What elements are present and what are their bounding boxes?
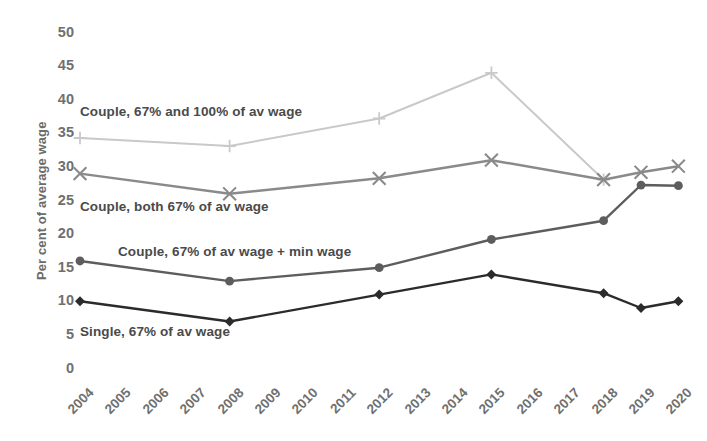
data-point-marker [599, 288, 609, 298]
data-point-marker [225, 277, 234, 286]
data-point-marker [223, 140, 235, 152]
line-chart: Per cent of average wage 051015202530354… [0, 0, 707, 441]
data-point-marker [636, 303, 646, 313]
data-point-marker [486, 269, 496, 279]
data-point-marker [599, 216, 608, 225]
series-label-3: Single, 67% of av wage [80, 324, 230, 339]
data-point-marker [637, 181, 646, 190]
data-point-marker [74, 132, 86, 144]
data-point-marker [75, 296, 85, 306]
series-label-0: Couple, 67% and 100% of av wage [80, 104, 302, 119]
data-point-marker [373, 112, 385, 124]
series-1 [74, 154, 685, 200]
plot-area [0, 0, 707, 441]
series-2 [76, 181, 683, 286]
data-point-marker [76, 257, 85, 266]
data-point-marker [487, 235, 496, 244]
series-3 [75, 269, 683, 326]
data-point-marker [375, 263, 384, 272]
data-point-marker [673, 296, 683, 306]
series-label-1: Couple, both 67% of av wage [80, 199, 269, 214]
series-label-2: Couple, 67% of av wage + min wage [118, 244, 351, 259]
data-point-marker [374, 290, 384, 300]
data-point-marker [674, 181, 683, 190]
series-line-0 [80, 73, 604, 180]
